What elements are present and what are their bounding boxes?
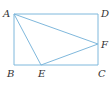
- point-label-e: E: [37, 68, 46, 79]
- point-label-f: F: [100, 39, 109, 50]
- segments-group: [14, 14, 98, 65]
- diagram-canvas: A B C D E F: [0, 0, 111, 89]
- segment-ae: [14, 14, 41, 65]
- point-label-d: D: [100, 8, 109, 19]
- point-label-b: B: [6, 68, 14, 79]
- point-label-a: A: [2, 8, 10, 19]
- segment-ef: [41, 44, 98, 65]
- point-label-c: C: [98, 68, 106, 79]
- segment-af: [14, 14, 98, 44]
- geometry-diagram: A B C D E F: [0, 0, 111, 89]
- labels-group: A B C D E F: [2, 8, 109, 79]
